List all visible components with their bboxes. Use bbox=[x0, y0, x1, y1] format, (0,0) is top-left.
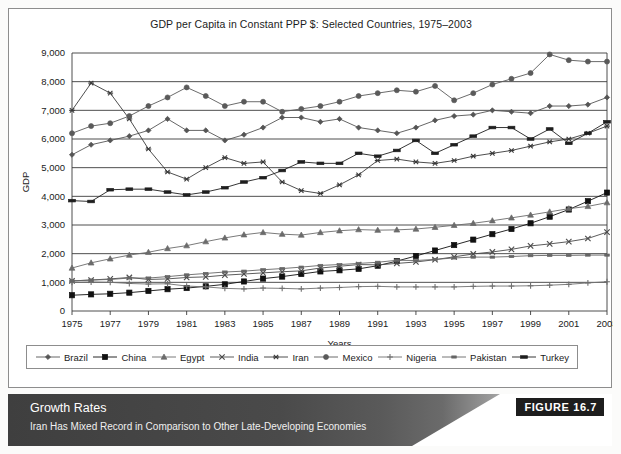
chart-panel: GDP per Capita in Constant PPP $: Select… bbox=[8, 8, 612, 388]
legend-item-label: Nigeria bbox=[406, 352, 436, 363]
legend-item-label: Pakistan bbox=[470, 352, 506, 363]
y-axis-tick-label: 4,000 bbox=[41, 191, 65, 202]
x-axis-tick-label: 1989 bbox=[329, 318, 350, 329]
star-marker-icon bbox=[263, 351, 289, 363]
x-axis-tick-label: 1985 bbox=[253, 318, 274, 329]
y-axis-tick-label: 8,000 bbox=[41, 76, 65, 87]
y-axis-tick-label: 7,000 bbox=[41, 105, 65, 116]
x-axis-tick-label: 1993 bbox=[405, 318, 426, 329]
x-axis-tick-label: 1995 bbox=[444, 318, 465, 329]
y-axis-tick-label: 3,000 bbox=[41, 219, 65, 230]
legend-item-label: Brazil bbox=[64, 352, 88, 363]
dash-wide-marker-icon bbox=[511, 351, 537, 363]
y-axis-tick-label: 0 bbox=[60, 305, 65, 316]
legend-item-pakistan[interactable]: Pakistan bbox=[441, 351, 506, 363]
legend-item-brazil[interactable]: Brazil bbox=[35, 351, 88, 363]
legend-item-label: India bbox=[238, 352, 259, 363]
y-axis-title: GDP bbox=[20, 172, 31, 193]
x-axis-tick-label: 1987 bbox=[291, 318, 312, 329]
caption-bar: Growth Rates Iran Has Mixed Record in Co… bbox=[8, 394, 612, 446]
legend-item-label: Egypt bbox=[180, 352, 204, 363]
y-axis-tick-label: 6,000 bbox=[41, 133, 65, 144]
line-chart-svg: 01,0002,0003,0004,0005,0006,0007,0008,00… bbox=[9, 9, 613, 389]
legend-item-india[interactable]: India bbox=[209, 351, 259, 363]
circle-marker-icon bbox=[313, 351, 339, 363]
legend-item-label: Iran bbox=[292, 352, 308, 363]
x-axis-tick-label: 1983 bbox=[214, 318, 235, 329]
square-marker-icon bbox=[92, 351, 118, 363]
x-axis-tick-label: 1981 bbox=[176, 318, 197, 329]
legend-item-label: Turkey bbox=[540, 352, 569, 363]
figure-number-badge: FIGURE 16.7 bbox=[516, 398, 604, 416]
x-marker-icon bbox=[209, 351, 235, 363]
figure-container: GDP per Capita in Constant PPP $: Select… bbox=[0, 0, 621, 454]
triangle-marker-icon bbox=[151, 351, 177, 363]
x-axis-tick-label: 1975 bbox=[61, 318, 82, 329]
y-axis-tick-label: 2,000 bbox=[41, 248, 65, 259]
series-mexico bbox=[70, 52, 610, 136]
legend-item-turkey[interactable]: Turkey bbox=[511, 351, 569, 363]
plot-area: 01,0002,0003,0004,0005,0006,0007,0008,00… bbox=[9, 9, 613, 389]
legend-item-iran[interactable]: Iran bbox=[263, 351, 308, 363]
y-axis-tick-label: 1,000 bbox=[41, 277, 65, 288]
x-axis-tick-label: 1999 bbox=[520, 318, 541, 329]
x-axis-tick-label: 1977 bbox=[100, 318, 121, 329]
x-axis-tick-label: 1979 bbox=[138, 318, 159, 329]
legend-item-china[interactable]: China bbox=[92, 351, 146, 363]
x-axis-tick-label: 2003 bbox=[596, 318, 613, 329]
series-turkey bbox=[69, 121, 611, 203]
plus-marker-icon bbox=[377, 351, 403, 363]
x-axis-tick-label: 1991 bbox=[367, 318, 388, 329]
y-axis-tick-label: 9,000 bbox=[41, 47, 65, 58]
caption-subtitle: Iran Has Mixed Record in Comparison to O… bbox=[30, 421, 366, 432]
caption-title: Growth Rates bbox=[30, 401, 106, 415]
legend-item-label: Mexico bbox=[342, 352, 372, 363]
x-axis-tick-label: 1997 bbox=[482, 318, 503, 329]
x-axis-tick-label: 2001 bbox=[558, 318, 579, 329]
y-axis-tick-label: 5,000 bbox=[41, 162, 65, 173]
legend-item-nigeria[interactable]: Nigeria bbox=[377, 351, 436, 363]
legend-item-egypt[interactable]: Egypt bbox=[151, 351, 204, 363]
legend-item-mexico[interactable]: Mexico bbox=[313, 351, 372, 363]
legend-item-label: China bbox=[121, 352, 146, 363]
diamond-marker-icon bbox=[35, 351, 61, 363]
series-egypt bbox=[69, 200, 610, 271]
chart-legend: BrazilChinaEgyptIndiaIranMexicoNigeriaPa… bbox=[26, 345, 578, 369]
dash-small-marker-icon bbox=[441, 351, 467, 363]
